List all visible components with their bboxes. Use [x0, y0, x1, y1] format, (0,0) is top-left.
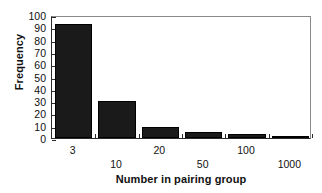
x-tick-mark	[225, 134, 226, 138]
y-tick-label: 60	[14, 60, 46, 71]
x-tick-label: 3	[43, 144, 103, 156]
y-tick-label: 30	[14, 97, 46, 108]
x-tick-label: 50	[173, 158, 233, 170]
x-tick-label: 20	[129, 144, 189, 156]
y-axis-tick-labels: 1009080706050403020100	[14, 11, 46, 145]
y-tick-mark	[52, 17, 56, 18]
bar	[272, 136, 309, 138]
bar-chart-figure: Frequency 1009080706050403020100 3102050…	[0, 0, 322, 193]
x-tick-mark	[95, 134, 96, 138]
x-axis-title: Number in pairing group	[51, 173, 311, 185]
plot-area	[51, 16, 311, 139]
y-tick-label: 100	[14, 11, 46, 22]
y-tick-label: 40	[14, 85, 46, 96]
y-tick-label: 90	[14, 23, 46, 34]
x-tick-label: 100	[216, 144, 276, 156]
y-tick-label: 80	[14, 36, 46, 47]
y-tick-label: 10	[14, 122, 46, 133]
bar	[55, 24, 92, 138]
y-tick-mark	[52, 140, 56, 141]
y-tick-label: 20	[14, 109, 46, 120]
bar	[228, 134, 265, 138]
x-tick-label: 10	[86, 158, 146, 170]
y-tick-label: 70	[14, 48, 46, 59]
bar	[142, 127, 179, 138]
x-tick-mark	[139, 134, 140, 138]
bar	[98, 101, 135, 138]
x-tick-mark	[182, 134, 183, 138]
x-tick-mark	[312, 134, 313, 138]
y-tick-label: 50	[14, 73, 46, 84]
bar	[185, 132, 222, 138]
x-tick-label: 1000	[259, 158, 319, 170]
y-tick-label: 0	[14, 134, 46, 145]
plot-inner	[52, 17, 310, 138]
x-tick-mark	[269, 134, 270, 138]
